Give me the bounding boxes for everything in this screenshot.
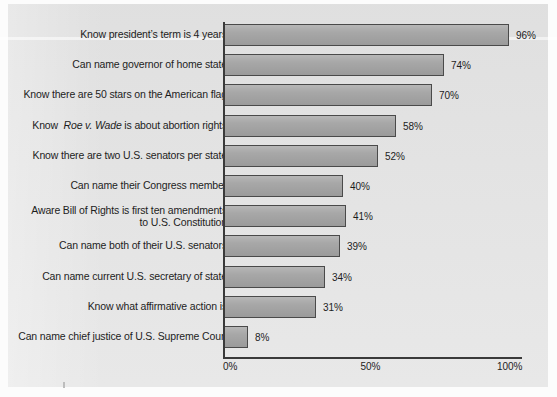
bar-value-label: 70% bbox=[439, 90, 459, 101]
x-tick-label: 100% bbox=[497, 361, 522, 372]
bar-category-label: Can name chief justice of U.S. Supreme C… bbox=[15, 331, 227, 343]
bar-track: 58% bbox=[224, 115, 521, 137]
bar-track: 8% bbox=[224, 326, 521, 348]
bar-track: 31% bbox=[224, 296, 521, 318]
x-tick-label: 50% bbox=[361, 361, 381, 372]
bar-row: Can name both of their U.S. senators39% bbox=[0, 235, 557, 257]
bar-chart-plot-area: Know president’s term is 4 years96%Can n… bbox=[0, 0, 557, 397]
bar-category-label: Know there are two U.S. senators per sta… bbox=[15, 150, 227, 162]
bar bbox=[224, 84, 432, 106]
bar bbox=[224, 145, 378, 167]
bar-row: Can name current U.S. secretary of state… bbox=[0, 266, 557, 288]
x-tick-label: 0% bbox=[223, 361, 237, 372]
bar-track: 96% bbox=[224, 24, 521, 46]
bar-track: 34% bbox=[224, 266, 521, 288]
bar-value-label: 8% bbox=[255, 332, 269, 343]
bar-row: Know president’s term is 4 years96% bbox=[0, 24, 557, 46]
bar-row: Know Roe v. Wade is about abortion right… bbox=[0, 115, 557, 137]
chart-screenshot: Know president’s term is 4 years96%Can n… bbox=[0, 0, 557, 397]
bar bbox=[224, 175, 343, 197]
scan-speck bbox=[63, 382, 65, 388]
bar-category-label: Know there are 50 stars on the American … bbox=[15, 90, 227, 102]
bar-category-label: Can name both of their U.S. senators bbox=[15, 241, 227, 253]
bar-value-label: 74% bbox=[451, 60, 471, 71]
y-axis-line bbox=[223, 22, 225, 358]
bar-category-label: Know Roe v. Wade is about abortion right… bbox=[15, 120, 227, 132]
bar-row: Can name their Congress member40% bbox=[0, 175, 557, 197]
bar-value-label: 40% bbox=[350, 181, 370, 192]
bar-row: Know what affirmative action is31% bbox=[0, 296, 557, 318]
bar-track: 70% bbox=[224, 84, 521, 106]
x-axis-line bbox=[223, 357, 522, 359]
bar-row: Know there are 50 stars on the American … bbox=[0, 84, 557, 106]
bar-row: Aware Bill of Rights is first ten amendm… bbox=[0, 205, 557, 227]
bar-value-label: 41% bbox=[353, 211, 373, 222]
bar bbox=[224, 24, 509, 46]
bar bbox=[224, 296, 316, 318]
bar-value-label: 58% bbox=[403, 120, 423, 131]
bar-row: Know there are two U.S. senators per sta… bbox=[0, 145, 557, 167]
bar-track: 74% bbox=[224, 54, 521, 76]
bar-track: 41% bbox=[224, 205, 521, 227]
bar-category-label: Can name governor of home state bbox=[15, 59, 227, 71]
bar-value-label: 39% bbox=[347, 241, 367, 252]
bar-value-label: 52% bbox=[385, 150, 405, 161]
bar-track: 40% bbox=[224, 175, 521, 197]
bar bbox=[224, 266, 325, 288]
bar bbox=[224, 326, 248, 348]
bar bbox=[224, 235, 340, 257]
bar-category-label: Can name their Congress member bbox=[15, 180, 227, 192]
bar-row: Can name chief justice of U.S. Supreme C… bbox=[0, 326, 557, 348]
bar-category-label: Aware Bill of Rights is first ten amendm… bbox=[15, 205, 227, 228]
bar-track: 39% bbox=[224, 235, 521, 257]
bar bbox=[224, 54, 444, 76]
bar-value-label: 31% bbox=[323, 301, 343, 312]
bar-value-label: 34% bbox=[332, 271, 352, 282]
bar-track: 52% bbox=[224, 145, 521, 167]
bar bbox=[224, 205, 346, 227]
bar-value-label: 96% bbox=[516, 30, 536, 41]
bar-category-label: Know president’s term is 4 years bbox=[15, 29, 227, 41]
bar-row: Can name governor of home state74% bbox=[0, 54, 557, 76]
bar-category-label: Can name current U.S. secretary of state bbox=[15, 271, 227, 283]
bar-category-label: Know what affirmative action is bbox=[15, 301, 227, 313]
bar bbox=[224, 115, 396, 137]
